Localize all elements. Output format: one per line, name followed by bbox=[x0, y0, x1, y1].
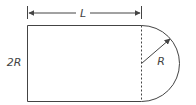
length-dimension: L bbox=[28, 6, 142, 20]
height-label: 2R bbox=[7, 56, 22, 69]
radius-arrow bbox=[142, 39, 171, 64]
length-label: L bbox=[80, 7, 86, 20]
rectangle-outline bbox=[28, 26, 142, 102]
radius-label: R bbox=[157, 55, 165, 68]
stadium-shape-diagram: L R 2R bbox=[0, 0, 196, 105]
